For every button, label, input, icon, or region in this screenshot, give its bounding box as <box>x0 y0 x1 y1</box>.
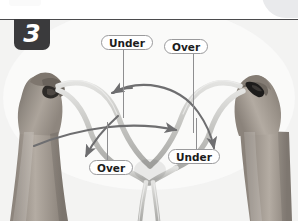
leader-line-under-bottom <box>196 118 197 149</box>
callout-over-bottom: Over <box>89 160 133 175</box>
page-header <box>0 0 298 20</box>
callout-under-top: Under <box>101 35 153 50</box>
leader-line-under-top <box>123 50 124 118</box>
callout-over-top: Over <box>164 39 208 54</box>
callout-under-bottom: Under <box>168 149 220 164</box>
header-ghost-mark <box>9 0 41 6</box>
leader-line-over-bottom <box>107 122 108 160</box>
header-corner-tab <box>262 0 298 18</box>
leader-line-over-top <box>193 54 194 133</box>
step-number-badge: 3 <box>14 19 50 50</box>
hands-and-cord-graphic <box>0 20 298 221</box>
instruction-photo <box>0 20 298 221</box>
